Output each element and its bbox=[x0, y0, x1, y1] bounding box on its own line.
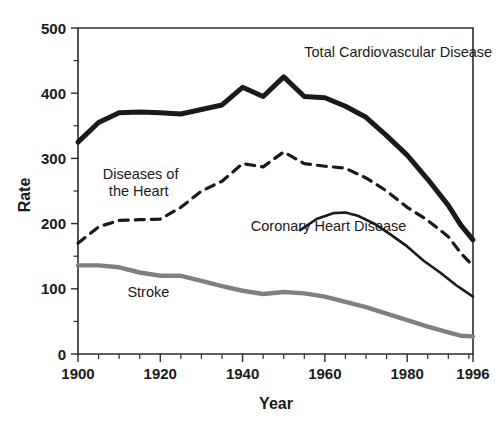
series-labels: Total Cardiovascular DiseaseDiseases oft… bbox=[103, 44, 492, 300]
series-label-3: Stroke bbox=[127, 284, 169, 300]
x-tick-label: 1920 bbox=[144, 365, 177, 382]
y-tick-label: 300 bbox=[41, 150, 66, 167]
x-axis-ticks bbox=[78, 354, 473, 362]
chart-container: 0100200300400500 19001920194019601980199… bbox=[0, 0, 504, 425]
y-axis-title: Rate bbox=[16, 178, 33, 213]
x-axis-title: Year bbox=[259, 395, 293, 412]
x-tick-label: 1940 bbox=[226, 365, 259, 382]
x-tick-label: 1960 bbox=[308, 365, 341, 382]
series-label-1: Diseases of bbox=[103, 166, 180, 182]
series-label-1: the Heart bbox=[109, 183, 169, 199]
x-tick-label: 1996 bbox=[456, 365, 489, 382]
series-label-0: Total Cardiovascular Disease bbox=[304, 44, 492, 60]
series-line-3 bbox=[78, 265, 473, 336]
y-tick-label: 200 bbox=[41, 215, 66, 232]
y-tick-label: 100 bbox=[41, 280, 66, 297]
x-axis-tick-labels: 190019201940196019801996 bbox=[61, 365, 489, 382]
y-axis-ticks bbox=[71, 28, 78, 354]
y-tick-label: 500 bbox=[41, 20, 66, 37]
x-tick-label: 1900 bbox=[61, 365, 94, 382]
y-tick-label: 400 bbox=[41, 85, 66, 102]
y-axis-tick-labels: 0100200300400500 bbox=[41, 20, 66, 363]
line-chart: 0100200300400500 19001920194019601980199… bbox=[0, 0, 504, 425]
series-label-2: Coronary Heart Disease bbox=[251, 218, 407, 234]
y-tick-label: 0 bbox=[58, 346, 66, 363]
x-tick-label: 1980 bbox=[390, 365, 423, 382]
